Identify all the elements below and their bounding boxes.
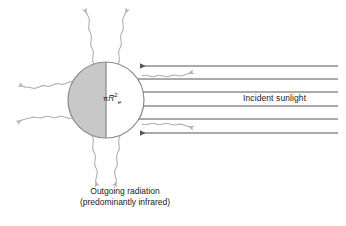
wavy-arrow-lower-left xyxy=(20,116,72,121)
subscript-earth: e xyxy=(118,99,121,105)
incident-sunlight-label: Incident sunlight xyxy=(243,93,306,103)
cross-section-area-label: πR2e xyxy=(103,92,121,105)
outgoing-radiation-line-2: (predominantly infrared) xyxy=(62,197,188,208)
wavy-arrow-up-right xyxy=(118,12,126,64)
incident-ray-group xyxy=(128,66,338,133)
outgoing-radiation-caption: Outgoing radiation (predominantly infrar… xyxy=(62,186,188,208)
exponent-two: 2 xyxy=(114,92,117,98)
earth-shaded-hemisphere xyxy=(68,62,106,138)
wavy-arrow-down-right xyxy=(115,136,120,183)
wavy-arrow-lower-right xyxy=(142,123,190,127)
wavy-arrow-down-left xyxy=(92,136,97,183)
wavy-arrow-upper-right xyxy=(142,73,190,77)
wavy-arrow-upper-left xyxy=(22,82,74,89)
energy-balance-figure: πR2e Incident sunlight Outgoing radiatio… xyxy=(0,0,346,226)
wavy-arrow-up-left xyxy=(86,12,94,64)
outgoing-radiation-line-1: Outgoing radiation xyxy=(62,186,188,197)
